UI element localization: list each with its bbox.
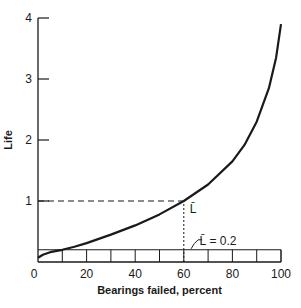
series-layer [38,24,281,258]
series-line [38,24,281,258]
x-tick-label: 100 [271,267,291,281]
y-tick-label: 1 [25,194,32,208]
x-tick-label: 60 [177,267,191,281]
chart: 1234020406080100 Bearings failed, percen… [0,0,301,308]
annotation-mean-life: L̄ [190,202,197,216]
x-axis-title: Bearings failed, percent [97,284,222,296]
x-tick-label: 80 [226,267,240,281]
y-tick-label: 4 [25,11,32,25]
y-tick-label: 2 [25,133,32,147]
y-axis-title: Life [2,130,14,150]
x-tick-label: 40 [129,267,143,281]
axes: 1234020406080100 [25,11,291,281]
y-tick-label: 3 [25,72,32,86]
x-tick-label: 0 [31,267,38,281]
x-tick-label: 20 [80,267,94,281]
annotation-l10: L̄ = 0.2 [199,234,236,248]
